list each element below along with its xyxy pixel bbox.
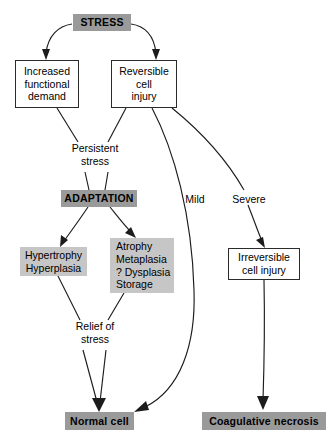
node-stress: STRESS xyxy=(73,14,131,31)
node-atrophy-metaplasia: Atrophy Metaplasia ? Dysplasia Storage xyxy=(110,238,174,293)
cell-injury-flowchart: STRESS Increased functional demand Rever… xyxy=(0,0,334,443)
node-irreversible-cell-injury-line-0: Irreversible xyxy=(238,251,290,264)
node-normal-cell: Normal cell xyxy=(65,412,134,430)
edge-label-severe: Severe xyxy=(228,193,270,206)
edge-label-persistent-stress-line-1: stress xyxy=(60,155,130,168)
edge-reversible-to-persistent-stress xyxy=(108,108,126,142)
edge-label-relief-of-stress-line-0: Relief of xyxy=(62,320,128,333)
node-normal-cell-line-0: Normal cell xyxy=(70,415,129,428)
edge-label-persistent-stress-line-0: Persistent xyxy=(60,142,130,155)
node-atrophy-metaplasia-line-1: Metaplasia xyxy=(116,253,167,266)
node-reversible-cell-injury: Reversible cell injury xyxy=(111,60,177,108)
edge-demand-to-persistent-stress xyxy=(57,108,78,142)
edge-persistent-stress-to-adaptation xyxy=(85,172,108,190)
node-adaptation-line-0: ADAPTATION xyxy=(64,192,133,205)
node-adaptation: ADAPTATION xyxy=(61,190,137,207)
edge-atrophy-to-relief xyxy=(108,293,124,320)
edge-stress-to-reversible-injury xyxy=(131,24,160,60)
edge-label-mild-line-0: Mild xyxy=(178,193,212,206)
node-hypertrophy-hyperplasia-line-1: Hyperplasia xyxy=(26,262,81,275)
edge-hypertrophy-to-relief xyxy=(58,276,80,320)
edge-label-relief-of-stress-line-1: stress xyxy=(62,333,128,346)
edge-label-severe-line-0: Severe xyxy=(228,193,270,206)
node-stress-line-0: STRESS xyxy=(80,16,123,29)
edge-label-relief-of-stress: Relief of stress xyxy=(62,320,128,346)
node-coagulative-necrosis-line-0: Coagulative necrosis xyxy=(209,415,319,428)
node-increased-functional-demand: Increased functional demand xyxy=(15,60,79,108)
edge-label-mild: Mild xyxy=(178,193,212,206)
node-irreversible-cell-injury-line-1: cell injury xyxy=(242,264,286,277)
edge-adaptation-to-hypertrophy xyxy=(60,207,88,247)
node-atrophy-metaplasia-line-3: Storage xyxy=(116,278,153,291)
node-increased-functional-demand-line-0: Increased xyxy=(24,65,70,78)
node-increased-functional-demand-line-1: functional xyxy=(25,78,70,91)
node-reversible-cell-injury-line-2: injury xyxy=(131,90,156,103)
node-irreversible-cell-injury: Irreversible cell injury xyxy=(228,248,300,280)
node-increased-functional-demand-line-2: demand xyxy=(28,90,66,103)
node-hypertrophy-hyperplasia-line-0: Hypertrophy xyxy=(25,249,82,262)
edge-reversible-severe-to-irreversible xyxy=(172,108,265,248)
node-reversible-cell-injury-line-0: Reversible xyxy=(119,65,169,78)
node-coagulative-necrosis: Coagulative necrosis xyxy=(202,412,326,430)
node-reversible-cell-injury-line-1: cell xyxy=(136,78,152,91)
node-hypertrophy-hyperplasia: Hypertrophy Hyperplasia xyxy=(20,247,87,276)
node-atrophy-metaplasia-line-2: ? Dysplasia xyxy=(116,266,170,279)
edge-stress-to-increased-demand xyxy=(42,24,72,60)
edge-irreversible-to-coagulative-necrosis xyxy=(257,280,269,410)
node-atrophy-metaplasia-line-0: Atrophy xyxy=(116,240,152,253)
edge-label-persistent-stress: Persistent stress xyxy=(60,142,130,168)
edge-adaptation-to-atrophy xyxy=(110,207,136,238)
edge-relief-to-normal-cell xyxy=(83,350,106,412)
